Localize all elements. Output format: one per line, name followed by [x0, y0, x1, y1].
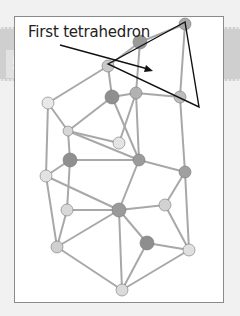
annotation-label: First tetrahedron — [28, 23, 150, 41]
ball-and-stick-model — [0, 0, 240, 316]
